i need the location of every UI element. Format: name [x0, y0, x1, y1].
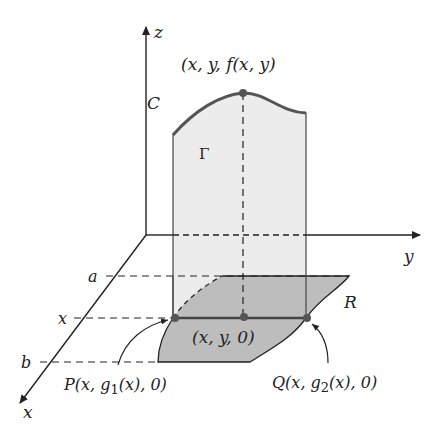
- x-axis-label: x: [23, 402, 33, 422]
- q-pointer-arrow: [312, 324, 328, 363]
- region-r-label: R: [343, 292, 357, 312]
- point-q: [303, 314, 311, 322]
- mid-point-label: (x, y, 0): [192, 327, 255, 347]
- point-p: [171, 314, 179, 322]
- tick-x-label: x: [58, 309, 67, 328]
- top-point-label: (x, y, f(x, y): [181, 54, 276, 74]
- z-axis-label: z: [153, 22, 164, 42]
- tick-b-label: b: [21, 353, 31, 372]
- y-axis-label: y: [403, 246, 414, 266]
- gamma-label: Γ: [199, 145, 209, 163]
- tick-a-label: a: [88, 267, 98, 286]
- top-point: [239, 89, 247, 97]
- q-point-label: Q(x, g2(x), 0): [272, 373, 377, 395]
- double-integral-diagram: z y x a x b (x, y, f(x, y) C Γ R (x, y, …: [0, 0, 447, 436]
- p-point-label: P(x, g1(x), 0): [63, 375, 167, 397]
- curve-c-label: C: [147, 93, 160, 113]
- mid-point: [240, 313, 248, 321]
